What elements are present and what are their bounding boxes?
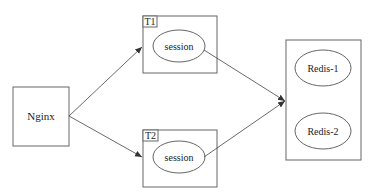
redis-2-label: Redis-2 — [307, 126, 338, 137]
tomcat-t2-node: T2 session — [143, 130, 217, 187]
arrow-nginx-to-t1 — [69, 47, 142, 116]
arrow-t2-to-redis — [204, 101, 285, 157]
t2-session-label: session — [165, 152, 194, 163]
redis-1-label: Redis-1 — [307, 63, 338, 74]
redis-cluster-node: Redis-1 Redis-2 — [286, 40, 361, 160]
nginx-node: Nginx — [13, 87, 69, 146]
arrow-nginx-to-t2 — [69, 116, 142, 157]
nginx-label: Nginx — [27, 110, 55, 122]
t1-tag-label: T1 — [144, 16, 155, 27]
arrow-t1-to-redis — [204, 50, 285, 101]
t2-tag-label: T2 — [145, 130, 156, 141]
t1-session-label: session — [165, 41, 194, 52]
tomcat-t1-node: T1 session — [143, 16, 217, 73]
architecture-diagram: Nginx T1 session T2 session Redis-1 Redi… — [0, 0, 370, 196]
